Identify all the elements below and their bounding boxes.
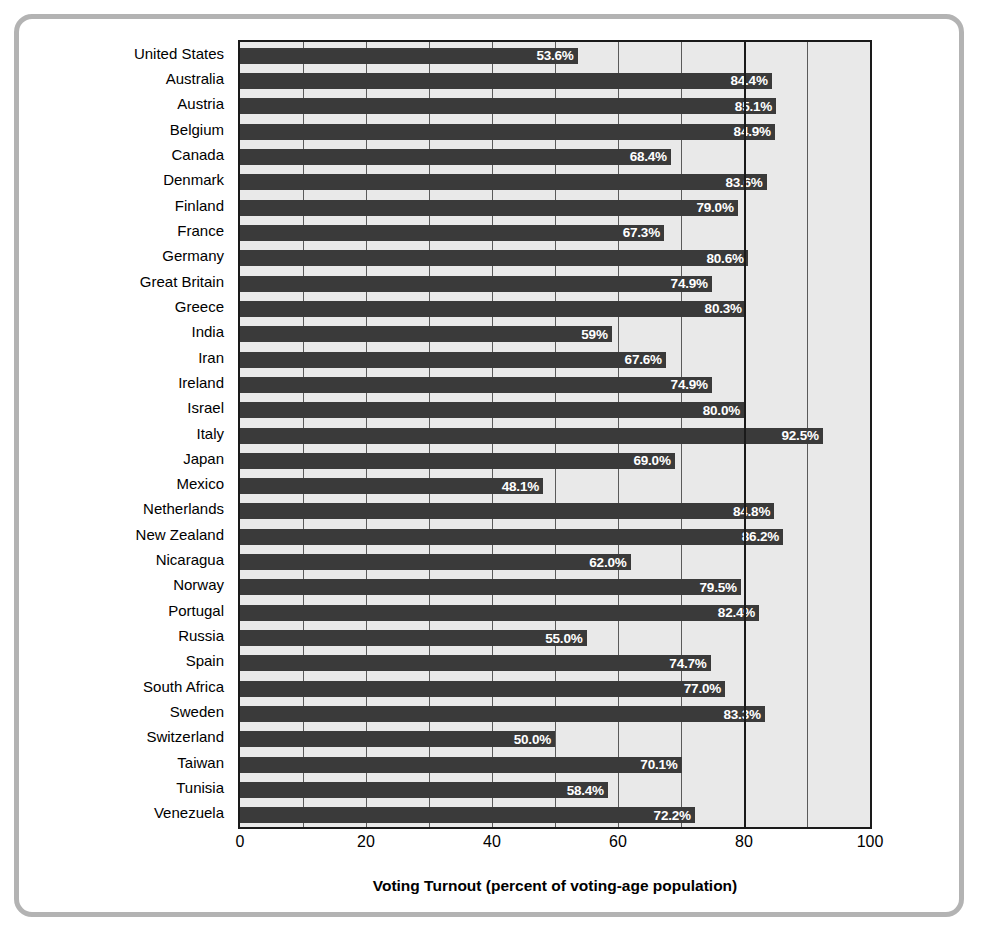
bar-value-label: 67.3% [623, 225, 664, 240]
bar[interactable]: 74.7% [240, 655, 711, 671]
bar[interactable]: 84.9% [240, 124, 775, 140]
bar-row: 74.9% [240, 377, 870, 393]
bar[interactable]: 79.5% [240, 579, 741, 595]
bar[interactable]: 67.3% [240, 225, 664, 241]
category-label: Nicaragua [156, 552, 224, 568]
category-label: Greece [175, 299, 224, 315]
bar-row: 80.0% [240, 402, 870, 418]
bar-row: 62.0% [240, 554, 870, 570]
bar-row: 70.1% [240, 757, 870, 773]
category-label: Finland [175, 198, 224, 214]
bar[interactable]: 59% [240, 326, 612, 342]
bar-row: 80.3% [240, 301, 870, 317]
bar-row: 58.4% [240, 782, 870, 798]
bar-value-label: 70.1% [640, 757, 681, 772]
bar[interactable]: 84.8% [240, 503, 774, 519]
bar-row: 86.2% [240, 529, 870, 545]
x-tick-100: 100 [857, 833, 884, 851]
plot-area: 53.6%84.4%85.1%84.9%68.4%83.6%79.0%67.3%… [238, 40, 872, 829]
bar-value-label: 77.0% [684, 681, 725, 696]
bar[interactable]: 58.4% [240, 782, 608, 798]
bar[interactable]: 53.6% [240, 48, 578, 64]
category-label: New Zealand [136, 527, 224, 543]
bar-row: 69.0% [240, 453, 870, 469]
bar[interactable]: 80.0% [240, 402, 744, 418]
bar-value-label: 74.9% [671, 377, 712, 392]
bar[interactable]: 84.4% [240, 73, 772, 89]
bar-value-label: 62.0% [589, 555, 630, 570]
bar[interactable]: 68.4% [240, 149, 671, 165]
category-label: Germany [162, 248, 224, 264]
bar[interactable]: 80.3% [240, 301, 746, 317]
x-tick-80: 80 [735, 833, 753, 851]
x-tick-60: 60 [609, 833, 627, 851]
bar[interactable]: 74.9% [240, 377, 712, 393]
bar-row: 67.3% [240, 225, 870, 241]
bar[interactable]: 92.5% [240, 428, 823, 444]
bar[interactable]: 83.6% [240, 174, 767, 190]
bar-row: 50.0% [240, 731, 870, 747]
bar-value-label: 67.6% [625, 352, 666, 367]
category-label: Mexico [176, 476, 224, 492]
x-tick-20: 20 [357, 833, 375, 851]
bar[interactable]: 55.0% [240, 630, 587, 646]
bar[interactable]: 83.3% [240, 706, 765, 722]
bar-value-label: 85.1% [735, 99, 776, 114]
bar-value-label: 53.6% [536, 48, 577, 63]
bar-row: 55.0% [240, 630, 870, 646]
bar-value-label: 83.6% [725, 175, 766, 190]
bar-value-label: 83.3% [724, 707, 765, 722]
x-axis-title: Voting Turnout (percent of voting-age po… [238, 877, 872, 895]
category-label: Israel [187, 400, 224, 416]
category-label: South Africa [143, 679, 224, 695]
bar-value-label: 48.1% [502, 479, 543, 494]
category-label: Australia [166, 71, 224, 87]
bar-value-label: 79.0% [696, 200, 737, 215]
bar-row: 53.6% [240, 48, 870, 64]
bar-row: 85.1% [240, 98, 870, 114]
bar[interactable]: 86.2% [240, 529, 783, 545]
x-tick-0: 0 [236, 833, 245, 851]
category-axis-labels: United StatesAustraliaAustriaBelgiumCana… [0, 40, 232, 829]
bar[interactable]: 74.9% [240, 276, 712, 292]
bar-row: 92.5% [240, 428, 870, 444]
category-label: Tunisia [176, 780, 224, 796]
bar[interactable]: 67.6% [240, 352, 666, 368]
bar-rows: 53.6%84.4%85.1%84.9%68.4%83.6%79.0%67.3%… [240, 42, 870, 827]
bar[interactable]: 77.0% [240, 681, 725, 697]
bar[interactable]: 80.6% [240, 250, 748, 266]
bar-value-label: 86.2% [742, 529, 783, 544]
bar-row: 79.0% [240, 200, 870, 216]
category-label: Netherlands [143, 501, 224, 517]
bar[interactable]: 50.0% [240, 731, 555, 747]
bar-row: 84.4% [240, 73, 870, 89]
bar[interactable]: 85.1% [240, 98, 776, 114]
bar[interactable]: 79.0% [240, 200, 738, 216]
bar-value-label: 80.0% [703, 403, 744, 418]
bar-value-label: 55.0% [545, 631, 586, 646]
bar[interactable]: 72.2% [240, 807, 695, 823]
category-label: France [177, 223, 224, 239]
category-label: Switzerland [146, 729, 224, 745]
bar-row: 72.2% [240, 807, 870, 823]
bar-value-label: 68.4% [630, 149, 671, 164]
bar[interactable]: 70.1% [240, 757, 682, 773]
bar-value-label: 84.9% [734, 124, 775, 139]
category-label: Spain [186, 653, 224, 669]
category-label: Austria [177, 96, 224, 112]
bar-row: 83.6% [240, 174, 870, 190]
bar[interactable]: 82.4% [240, 605, 759, 621]
bar-row: 79.5% [240, 579, 870, 595]
x-tick-40: 40 [483, 833, 501, 851]
bar-value-label: 74.9% [671, 276, 712, 291]
bar-value-label: 80.6% [706, 251, 747, 266]
bar[interactable]: 69.0% [240, 453, 675, 469]
bar[interactable]: 48.1% [240, 478, 543, 494]
category-label: Taiwan [177, 755, 224, 771]
category-label: Belgium [170, 122, 224, 138]
bar[interactable]: 62.0% [240, 554, 631, 570]
category-label: United States [134, 46, 224, 62]
bar-value-label: 59% [581, 327, 611, 342]
bar-row: 68.4% [240, 149, 870, 165]
category-label: Japan [183, 451, 224, 467]
